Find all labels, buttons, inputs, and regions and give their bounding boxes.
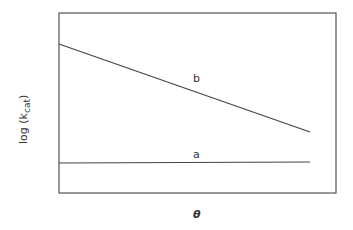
line-b: [59, 44, 310, 132]
y-label-subscript: cat: [22, 99, 32, 113]
svg-text:log (kcat): log (kcat): [17, 95, 32, 144]
plot-frame: [59, 13, 336, 193]
label-b: b: [193, 72, 200, 85]
chart: b a θ log (kcat): [0, 0, 353, 230]
y-axis-label: log (kcat): [17, 95, 32, 144]
line-a: [59, 162, 310, 163]
x-axis-label: θ: [193, 208, 201, 221]
y-label-prefix: log (k: [17, 112, 30, 144]
y-label-suffix: ): [17, 95, 30, 99]
label-a: a: [193, 148, 200, 161]
